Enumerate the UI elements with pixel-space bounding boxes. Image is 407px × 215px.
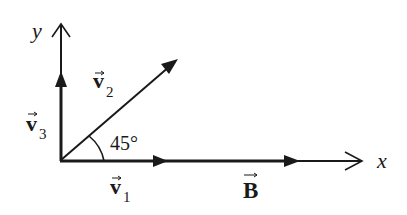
vector-diagram: y x 45° v 2 v 3 v 1 B: [0, 0, 407, 215]
x-axis-label: x: [376, 148, 387, 173]
v2-label: v 2: [93, 68, 114, 100]
y-axis-label: y: [30, 18, 42, 43]
v1-label: v 1: [110, 174, 131, 205]
v3-arrowhead-icon: [55, 71, 67, 87]
vector-arrow-accent-icon: [244, 173, 257, 177]
B-arrowhead-icon: [284, 155, 300, 167]
v3-label: v 3: [26, 111, 47, 142]
angle-arc: [89, 136, 104, 161]
svg-text:1: 1: [123, 189, 131, 205]
B-label: B: [243, 173, 258, 203]
svg-text:2: 2: [106, 84, 114, 100]
svg-text:3: 3: [39, 126, 47, 142]
angle-label: 45°: [110, 132, 138, 154]
svg-text:B: B: [243, 178, 258, 203]
